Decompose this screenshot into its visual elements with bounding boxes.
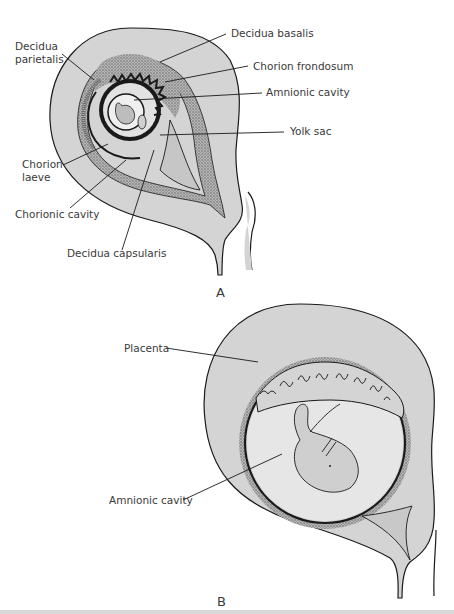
label-yolk-sac: Yolk sac [290,125,331,137]
panel-letter-a: A [216,285,225,300]
panel-b-uterus [204,304,436,598]
diagram-graphics [0,0,454,614]
label-chorion-laeve-line1: Chorion [22,158,63,170]
label-placenta: Placenta [124,342,169,354]
label-decidua-parietalis-line2: parietalis [15,53,64,65]
label-amnionic-cavity-b: Amnionic cavity [109,494,193,506]
label-chorion-laeve-line2: laeve [22,171,51,183]
panel-a-uterus [50,28,255,275]
label-amnionic-cavity-a: Amnionic cavity [266,86,350,98]
label-decidua-parietalis-line1: Decidua [15,40,58,52]
label-chorion-frondosum: Chorion frondosum [253,60,353,72]
label-chorionic-cavity: Chorionic cavity [15,208,99,220]
label-decidua-basalis: Decidua basalis [231,27,314,39]
label-decidua-capsularis: Decidua capsularis [67,247,166,259]
bottom-border-strip [0,610,454,614]
panel-letter-b: B [217,594,226,609]
